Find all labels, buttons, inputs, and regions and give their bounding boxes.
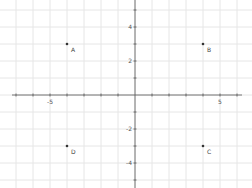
y-tick-label: -2 bbox=[126, 125, 132, 132]
y-tick-label: 4 bbox=[128, 23, 132, 30]
point-label: A bbox=[71, 46, 76, 53]
point-marker bbox=[202, 43, 205, 46]
y-tick-label: 2 bbox=[128, 57, 132, 64]
point-label: B bbox=[207, 46, 211, 53]
y-tick-label: -4 bbox=[126, 159, 132, 166]
x-tick-label: -5 bbox=[47, 98, 53, 105]
point-marker bbox=[202, 145, 205, 148]
coordinate-plane: -5542-2-4 ABCD bbox=[0, 0, 252, 188]
point-marker bbox=[66, 145, 69, 148]
plotted-points: ABCD bbox=[66, 43, 212, 155]
point-marker bbox=[66, 43, 69, 46]
point-label: C bbox=[207, 148, 211, 155]
x-tick-label: 5 bbox=[218, 98, 222, 105]
point-label: D bbox=[71, 148, 76, 155]
